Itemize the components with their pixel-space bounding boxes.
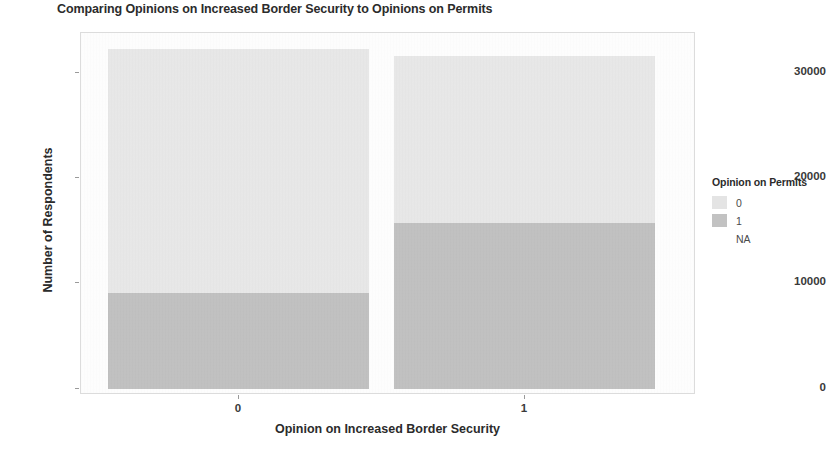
y-tick-label-10000: 10000 xyxy=(754,275,826,287)
y-tick-mark-30000 xyxy=(75,72,79,73)
bar-segment-1-opinion-0[interactable] xyxy=(394,56,655,223)
legend-item-na[interactable]: NA xyxy=(712,230,807,247)
bar-segment-1-opinion-1[interactable] xyxy=(394,223,655,389)
y-tick-label-30000: 30000 xyxy=(754,65,826,77)
y-axis-title: Number of Respondents xyxy=(41,90,55,350)
bar-group-1[interactable] xyxy=(394,56,655,389)
x-tick-mark-1 xyxy=(524,395,525,399)
plot-area xyxy=(81,33,694,393)
y-tick-mark-0 xyxy=(75,388,79,389)
legend-label-0: 0 xyxy=(736,197,742,209)
legend-swatch-1 xyxy=(712,214,727,227)
plot-panel xyxy=(80,32,695,394)
x-tick-mark-0 xyxy=(238,395,239,399)
legend-title: Opinion on Permits xyxy=(712,176,807,188)
bar-chart: Comparing Opinions on Increased Border S… xyxy=(0,0,826,449)
legend-swatch-na xyxy=(712,232,727,245)
legend-swatch-0 xyxy=(712,196,727,209)
bar-group-0[interactable] xyxy=(108,49,369,389)
legend-label-1: 1 xyxy=(736,215,742,227)
legend-item-1[interactable]: 1 xyxy=(712,212,807,229)
x-tick-label-1: 1 xyxy=(521,402,527,414)
x-axis-title: Opinion on Increased Border Security xyxy=(80,422,695,436)
y-tick-label-0: 0 xyxy=(754,381,826,393)
legend-label-na: NA xyxy=(736,233,751,245)
legend: Opinion on Permits 0 1 NA xyxy=(712,176,807,248)
legend-item-0[interactable]: 0 xyxy=(712,194,807,211)
bar-segment-0-opinion-1[interactable] xyxy=(108,293,369,389)
x-tick-label-0: 0 xyxy=(235,402,241,414)
y-tick-mark-20000 xyxy=(75,177,79,178)
chart-title: Comparing Opinions on Increased Border S… xyxy=(57,2,492,16)
y-tick-mark-10000 xyxy=(75,282,79,283)
bar-segment-0-opinion-0[interactable] xyxy=(108,49,369,293)
